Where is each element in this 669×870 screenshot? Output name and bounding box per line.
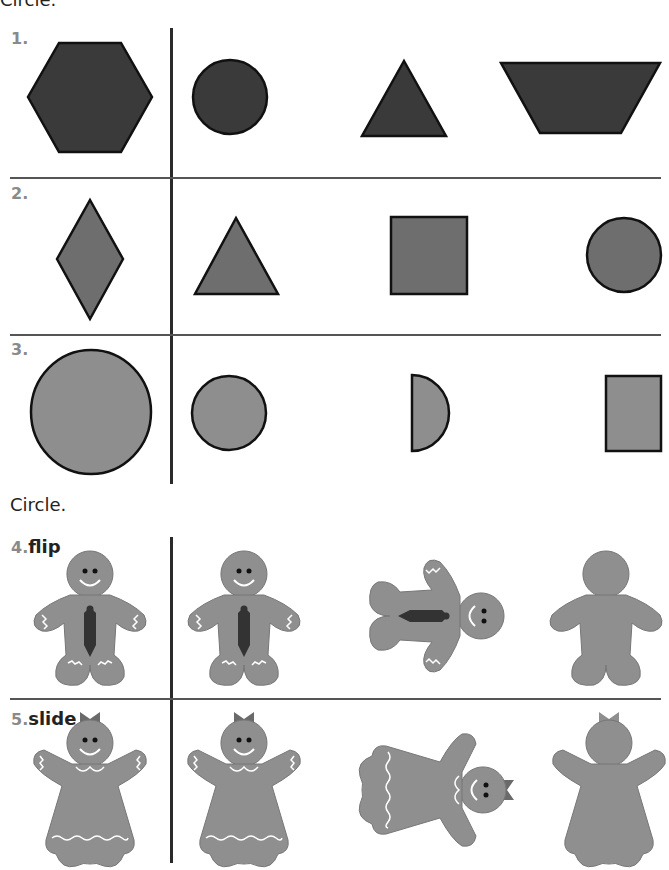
gingerbread-girl-choice-turned[interactable]	[356, 730, 516, 850]
divider-row-4-5	[10, 698, 661, 700]
gingerbread-girl-choice-same[interactable]	[184, 710, 304, 870]
problem-number-5: 5.	[11, 710, 28, 729]
problem-number-4: 4.	[11, 538, 28, 557]
gingerbread-boy-choice-same[interactable]	[184, 545, 304, 695]
gingerbread-girl-choice-silhouette[interactable]	[549, 710, 669, 870]
gingerbread-girl-target	[30, 710, 150, 870]
middle-instruction: Circle.	[10, 494, 66, 515]
gingerbread-boy-choice-silhouette[interactable]	[546, 545, 666, 695]
rectangle-choice-3[interactable]	[0, 0, 669, 500]
divider-vertical-cookies	[170, 537, 173, 863]
gingerbread-boy-choice-turned[interactable]	[360, 556, 510, 676]
gingerbread-boy-target	[30, 545, 150, 695]
